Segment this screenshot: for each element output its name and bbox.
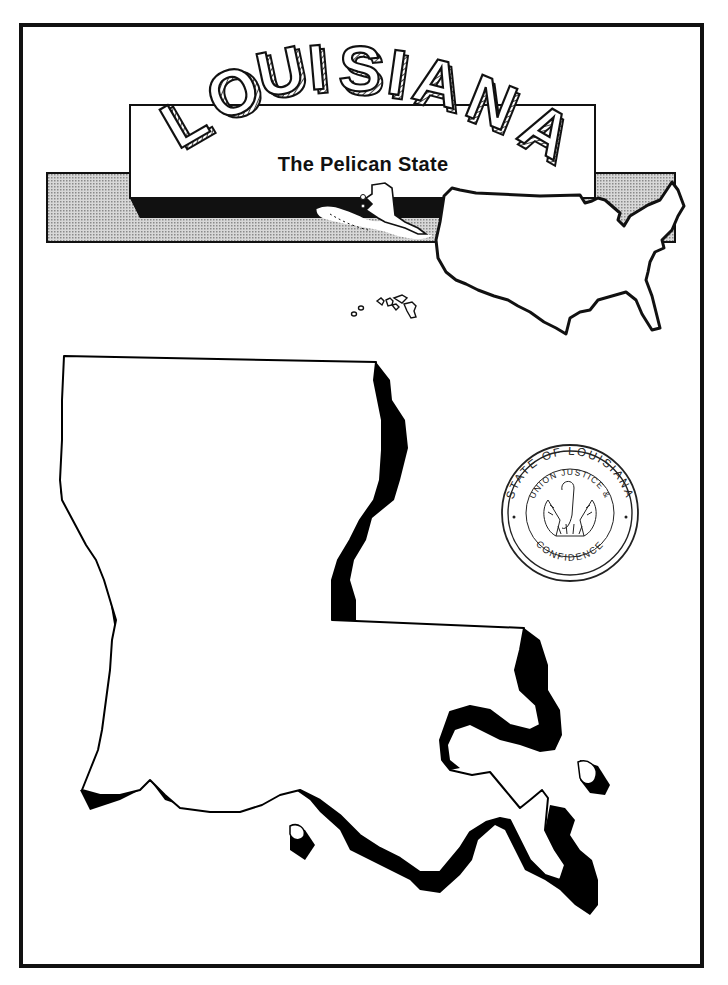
svg-text:S: S [338,32,383,105]
usa-map-icon [436,182,684,334]
louisiana-map [60,356,596,880]
illustration-canvas: L L O O U U I I S S I I A A N N [0,0,728,985]
state-seal: STATE OF LOUISIANA UNION JUSTICE & CONFI… [502,445,638,581]
banner-shadow [130,198,460,218]
hawaii-map-icon [352,295,417,318]
subtitle-the-pelican-state: The Pelican State [228,153,498,176]
